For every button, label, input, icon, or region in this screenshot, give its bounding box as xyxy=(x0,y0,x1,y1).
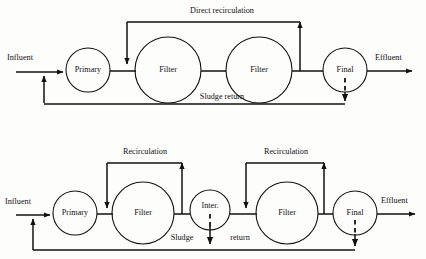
bottom-unit-primary-label: Primary xyxy=(62,208,89,217)
bottom-influent-label: Influent xyxy=(5,197,32,206)
process-flow-diagram-figure: Influent Primary Filter Filter Final Eff… xyxy=(0,0,426,259)
flow-diagram-canvas: Influent Primary Filter Filter Final Eff… xyxy=(0,0,426,259)
top-effluent-label: Effluent xyxy=(375,53,402,62)
bottom-unit-final-label: Final xyxy=(347,208,365,217)
bottom-sludge-label-left: Sludge xyxy=(171,233,194,242)
top-unit-primary-label: Primary xyxy=(75,65,102,74)
bottom-unit-filter-1-label: Filter xyxy=(134,208,152,217)
top-scheme-group: Influent Primary Filter Filter Final Eff… xyxy=(7,6,412,104)
bottom-recirculation-2-label: Recirculation xyxy=(264,147,308,156)
top-unit-final-label: Final xyxy=(337,65,355,74)
top-unit-filter-1-label: Filter xyxy=(159,65,177,74)
bottom-unit-filter-2-label: Filter xyxy=(278,208,296,217)
bottom-effluent-label: Effluent xyxy=(381,196,408,205)
bottom-sludge-label-right: return xyxy=(230,233,250,242)
bottom-scheme-group: Influent Primary Filter Inter. Filter Fi… xyxy=(5,147,415,250)
top-influent-label: Influent xyxy=(7,53,34,62)
bottom-unit-intermediate-label: Inter. xyxy=(201,201,218,210)
top-unit-filter-2-label: Filter xyxy=(250,65,268,74)
top-sludge-return-label: Sludge return xyxy=(200,92,244,101)
top-direct-recirculation-label: Direct recirculation xyxy=(190,6,254,15)
bottom-recirculation-1-label: Recirculation xyxy=(123,147,167,156)
